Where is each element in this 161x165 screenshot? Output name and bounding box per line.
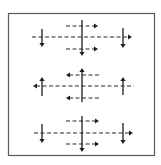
- diagram-background: [0, 0, 161, 165]
- arrow-diagram: [0, 0, 161, 165]
